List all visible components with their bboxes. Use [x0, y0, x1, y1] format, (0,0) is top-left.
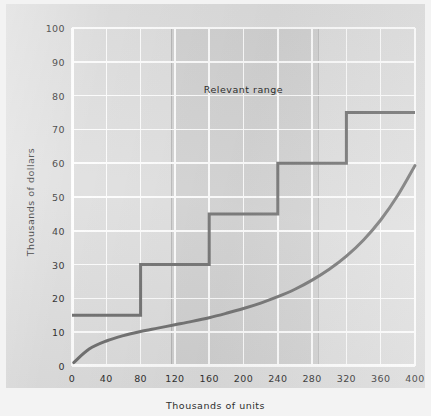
- chart-panel: 0102030405060708090100 04080120160200240…: [6, 4, 425, 388]
- y-tick-label: 60: [52, 158, 65, 169]
- y-tick-label: 50: [52, 192, 65, 203]
- x-tick-label: 240: [268, 373, 287, 384]
- x-axis-title: Thousands of units: [6, 400, 425, 411]
- y-tick-label: 0: [59, 361, 65, 372]
- step-fixed-cost-line: [72, 113, 415, 316]
- y-tick-label: 20: [52, 293, 65, 304]
- y-tick-label: 40: [52, 225, 65, 236]
- x-tick-label: 0: [69, 373, 75, 384]
- y-tick-label: 100: [46, 23, 65, 34]
- y-tick-label: 30: [52, 259, 65, 270]
- y-tick-label: 80: [52, 90, 65, 101]
- y-tick-label: 70: [52, 124, 65, 135]
- x-tick-label: 160: [200, 373, 219, 384]
- x-tick-label: 120: [165, 373, 184, 384]
- y-tick-label: 90: [52, 56, 65, 67]
- x-tick-label: 320: [337, 373, 356, 384]
- plot-area: 0102030405060708090100 04080120160200240…: [72, 28, 415, 366]
- y-tick-label: 10: [52, 327, 65, 338]
- y-axis-title: Thousands of dollars: [25, 148, 36, 256]
- x-tick-label: 360: [371, 373, 390, 384]
- data-lines: [72, 28, 415, 366]
- relevant-range-label: Relevant range: [204, 83, 283, 94]
- x-tick-label: 40: [100, 373, 113, 384]
- figure: 0102030405060708090100 04080120160200240…: [0, 0, 431, 416]
- x-tick-label: 400: [405, 373, 424, 384]
- total-variable-cost-curve: [74, 166, 415, 363]
- x-tick-label: 80: [134, 373, 147, 384]
- x-tick-label: 200: [234, 373, 253, 384]
- x-tick-label: 280: [302, 373, 321, 384]
